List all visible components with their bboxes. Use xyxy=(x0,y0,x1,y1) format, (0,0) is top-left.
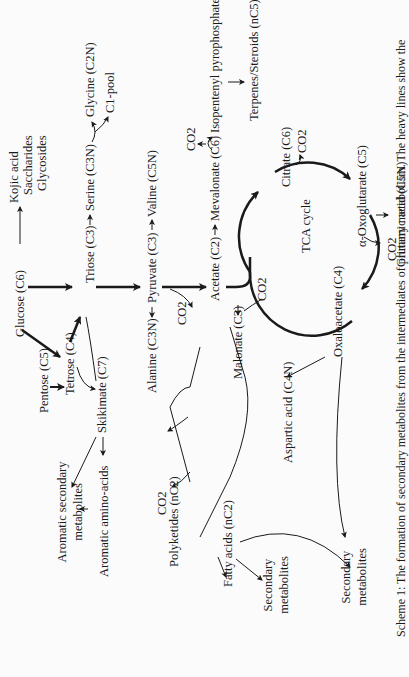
node-triose: Triose (C3) xyxy=(84,225,97,283)
node-tca-cycle: TCA cycle xyxy=(300,199,313,253)
node-aspartic-acid: Aspartic acid (C4N) xyxy=(282,362,295,463)
node-aromatic-secondary-line2: metabolites xyxy=(72,457,85,567)
node-serine: Serine (C3N) xyxy=(84,144,97,211)
node-mevalonate: Mevalonate (C6) xyxy=(209,136,222,221)
node-aromatic-secondary-line1: Aromatic secondary xyxy=(56,457,69,567)
node-c1-pool: C1-pool xyxy=(104,72,117,113)
node-secondary-fatty-line2: metabolites xyxy=(278,545,291,625)
node-pyruvate: Pyruvate (C3) xyxy=(146,233,159,303)
node-glycine: Glycine (C2N) xyxy=(84,42,97,117)
node-co2-malonate: CO2 xyxy=(256,277,269,301)
node-skikimate: Skikimate (C7) xyxy=(96,356,109,433)
node-malonate: Malonate (C3) xyxy=(232,306,245,379)
node-oxoglutarate: α-Oxoglutarate (C5) xyxy=(356,145,369,247)
node-co2-mevalonate: CO2 xyxy=(185,127,198,151)
node-fatty-acids: Fatty acids (nC2) xyxy=(222,500,235,587)
node-co2-citrate: CO2 xyxy=(296,129,309,153)
node-aromatic-secondary: Aromatic secondary metabolites xyxy=(56,457,84,567)
node-secondary-oxalo-line2: metabolites xyxy=(356,537,369,617)
node-polyketides: Polyketides (nC2) xyxy=(168,476,181,567)
node-terpenes-steroids: Terpenes/Steroids (nC5) xyxy=(248,0,261,121)
node-oxaloacetate: Oxaloacetate (C4) xyxy=(332,266,345,357)
node-kojic-acid: Kojic acid xyxy=(8,151,21,203)
node-valine: Valine (C5N) xyxy=(146,150,159,217)
node-acetate: Acetate (C2) xyxy=(209,237,222,301)
node-secondary-fatty-line1: Secondary xyxy=(262,545,275,625)
node-secondary-metabolites-oxalo: Secondary metabolites xyxy=(340,537,368,617)
node-saccharides: Saccharides xyxy=(22,135,35,195)
node-glucose: Glucose (C6) xyxy=(14,270,27,337)
node-secondary-oxalo-line1: Secondary xyxy=(340,537,353,617)
node-glycosides: Glycosides xyxy=(36,135,49,191)
node-citrate: Citrate (C6) xyxy=(280,127,293,187)
node-pentose: Pentose (C5) xyxy=(38,348,51,413)
node-alanine: Alanine (C3N) xyxy=(146,318,159,393)
node-co2-pyruvate: CO2 xyxy=(176,301,189,325)
node-secondary-metabolites-fatty: Secondary metabolites xyxy=(262,545,290,625)
figure-caption: Scheme 1: The formation of secondary met… xyxy=(394,40,409,637)
rotated-scheme-page: Glucose (C6) Kojic acid Saccharides Glyc… xyxy=(0,0,409,677)
node-isopentenyl-pp: Isopentenyl pyrophosphate (C5) xyxy=(209,0,222,133)
node-tetrose: Tetrose (C4) xyxy=(64,332,77,395)
node-aromatic-amino-acids: Aromatic amino-acids xyxy=(98,466,111,577)
